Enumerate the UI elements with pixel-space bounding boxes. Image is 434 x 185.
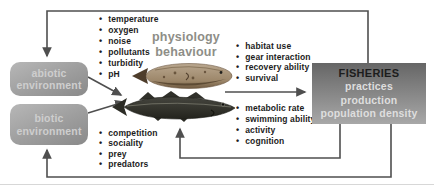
cod-fish-image bbox=[111, 90, 237, 124]
abiotic-environment-label-line2: environment bbox=[10, 79, 88, 92]
list-item: habitat use bbox=[236, 41, 311, 52]
list-item: swimming ability bbox=[236, 113, 315, 124]
abiotic-environment-box: abiotic environment bbox=[10, 62, 88, 96]
list-item: prey bbox=[99, 149, 158, 159]
physiology-behaviour-label: physiology behaviour bbox=[141, 30, 231, 60]
list-item: cognition bbox=[236, 135, 315, 146]
biotic-environment-box: biotic environment bbox=[10, 104, 88, 145]
fisheries-item: population density bbox=[312, 107, 426, 121]
fisheries-item: production bbox=[312, 94, 426, 108]
fisheries-title: FISHERIES bbox=[312, 66, 426, 80]
list-item: competition bbox=[99, 128, 158, 138]
behaviour-label: behaviour bbox=[141, 45, 231, 60]
biotic-environment-label-line2: environment bbox=[10, 125, 88, 138]
list-item: gear interaction bbox=[236, 52, 311, 63]
list-item: metabolic rate bbox=[236, 102, 315, 113]
conceptual-diagram: abiotic environment biotic environment t… bbox=[0, 0, 434, 185]
biotic-factors-list: competition sociality prey predators bbox=[99, 128, 158, 169]
list-item: predators bbox=[99, 159, 158, 169]
list-item: survival bbox=[236, 73, 311, 84]
list-item: activity bbox=[236, 124, 315, 135]
list-item: temperature bbox=[99, 13, 159, 24]
plaice-fish-image bbox=[131, 61, 233, 92]
performance-traits-list: metabolic rate swimming ability activity… bbox=[236, 102, 315, 146]
fishery-traits-list: habitat use gear interaction recovery ab… bbox=[236, 41, 311, 83]
physiology-label: physiology bbox=[141, 30, 231, 45]
biotic-environment-label-line1: biotic bbox=[10, 112, 88, 125]
list-item: recovery ability bbox=[236, 62, 311, 73]
list-item: sociality bbox=[99, 138, 158, 148]
fisheries-item: practices bbox=[312, 80, 426, 94]
fisheries-box: FISHERIES practices production populatio… bbox=[312, 63, 426, 124]
abiotic-environment-label-line1: abiotic bbox=[10, 67, 88, 80]
